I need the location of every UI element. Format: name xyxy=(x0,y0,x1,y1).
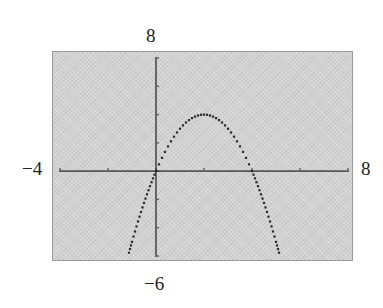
axes xyxy=(59,57,349,257)
window-ymax-label: 8 xyxy=(146,26,156,45)
parabola-curve xyxy=(128,114,280,254)
window-ymin-label: −6 xyxy=(144,274,164,293)
window-xmax-label: 8 xyxy=(361,159,371,178)
calculator-graph-screen xyxy=(52,51,353,261)
graph-plot-area xyxy=(53,52,354,262)
window-xmin-label: −4 xyxy=(22,159,42,178)
